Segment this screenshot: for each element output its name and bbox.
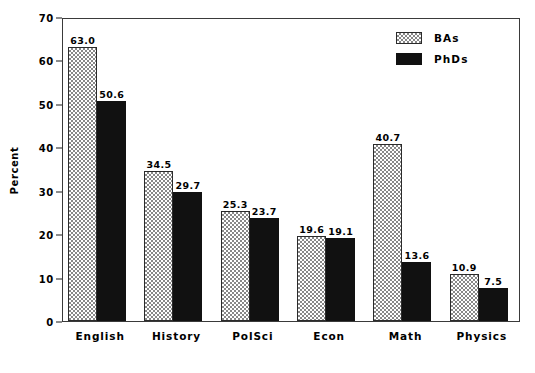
x-axis-tick-label: Physics	[457, 330, 508, 342]
bar-bas-english: 63.0	[68, 47, 97, 321]
x-axis-tick-label: Math	[389, 330, 423, 342]
bar-value-label: 34.5	[146, 159, 171, 170]
y-axis-tick-label: 20	[39, 230, 54, 241]
x-axis-tick-label: Econ	[313, 330, 345, 342]
bar-bas-history: 34.5	[144, 171, 173, 321]
bar-phds-english: 50.6	[97, 101, 126, 321]
bar-value-label: 29.7	[175, 180, 200, 191]
legend-swatch-bas	[396, 32, 422, 44]
bar-value-label: 10.9	[452, 262, 477, 273]
bar-bas-polsci: 25.3	[221, 211, 250, 321]
legend-label: BAs	[434, 32, 460, 44]
y-axis-tick-label: 30	[39, 186, 54, 197]
bar-value-label: 19.6	[299, 224, 324, 235]
legend-item-phds: PhDs	[396, 53, 469, 65]
y-axis-tick-label: 0	[46, 317, 54, 328]
bar-value-label: 19.1	[328, 226, 353, 237]
bar-value-label: 13.6	[404, 250, 429, 261]
bar-phds-history: 29.7	[173, 192, 202, 321]
bar-value-label: 7.5	[484, 276, 502, 287]
x-axis-tick-labels: EnglishHistoryPolSciEconMathPhysics	[62, 330, 520, 354]
bar-phds-math: 13.6	[402, 262, 431, 321]
bar-value-label: 50.6	[99, 89, 124, 100]
y-axis-tick-label: 40	[39, 143, 54, 154]
y-axis-tick-label: 50	[39, 99, 54, 110]
bar-value-label: 40.7	[375, 132, 400, 143]
legend-swatch-phds	[396, 53, 422, 65]
legend-item-bas: BAs	[396, 32, 469, 44]
bar-value-label: 25.3	[223, 199, 248, 210]
bar-value-label: 63.0	[70, 35, 95, 46]
bar-group: 63.050.6	[63, 19, 139, 321]
bar-phds-econ: 19.1	[326, 238, 355, 321]
bar-phds-polsci: 23.7	[250, 218, 279, 321]
y-axis-tick-label: 70	[39, 13, 54, 24]
bar-chart: Percent 010203040506070 63.050.634.529.7…	[0, 0, 535, 373]
y-axis-tick-labels: 010203040506070	[26, 0, 54, 340]
y-axis-title: Percent	[4, 0, 26, 340]
x-axis-tick-label: English	[75, 330, 124, 342]
bar-phds-physics: 7.5	[479, 288, 508, 321]
bar-group: 19.619.1	[292, 19, 368, 321]
legend-label: PhDs	[434, 53, 469, 65]
y-axis-tick-label: 60	[39, 56, 54, 67]
bar-bas-econ: 19.6	[297, 236, 326, 321]
bar-bas-physics: 10.9	[450, 274, 479, 321]
chart-legend: BAsPhDs	[396, 32, 469, 65]
y-axis-title-text: Percent	[10, 146, 21, 194]
x-axis-tick-label: History	[152, 330, 201, 342]
bar-group: 25.323.7	[216, 19, 292, 321]
bar-bas-math: 40.7	[373, 144, 402, 321]
bar-value-label: 23.7	[252, 206, 277, 217]
y-axis-tick-label: 10	[39, 273, 54, 284]
x-axis-tick-label: PolSci	[232, 330, 273, 342]
bar-group: 34.529.7	[139, 19, 215, 321]
